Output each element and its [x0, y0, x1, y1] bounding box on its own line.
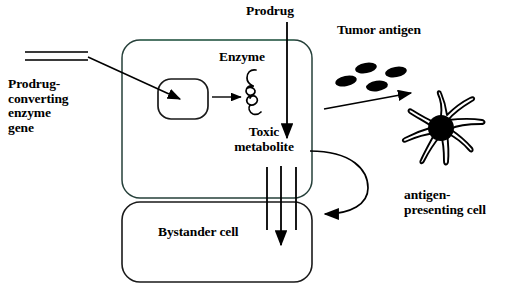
enzyme-squiggle-icon: [246, 70, 261, 115]
tumor-antigen-particles: [334, 61, 408, 93]
bystander-feedback-curved-arrow: [310, 151, 368, 214]
label-prodrug: Prodrug: [246, 4, 294, 19]
gene-construct-dna-icon: [25, 52, 88, 60]
label-prodrug-converting-enzyme-gene: Prodrug- converting enzyme gene: [8, 77, 69, 135]
apc-nucleus: [428, 115, 454, 141]
nucleus: [158, 79, 208, 119]
bystander-cell: [122, 202, 312, 282]
antigen-presenting-cell: [403, 91, 485, 164]
gene-to-nucleus-arrow: [88, 57, 180, 99]
label-enzyme: Enzyme: [219, 50, 265, 65]
label-bystander-cell: Bystander cell: [158, 225, 238, 240]
transduced-tumor-cell: [122, 40, 312, 198]
label-antigen-presenting-cell: antigen- presenting cell: [404, 188, 486, 217]
label-toxic-metabolite: Toxic metabolite: [222, 125, 306, 154]
diagram-canvas: Prodrug Enzyme Toxic metabolite Prodrug-…: [0, 0, 506, 289]
label-tumor-antigen: Tumor antigen: [337, 23, 421, 38]
antigen-release-arrow: [324, 93, 411, 109]
